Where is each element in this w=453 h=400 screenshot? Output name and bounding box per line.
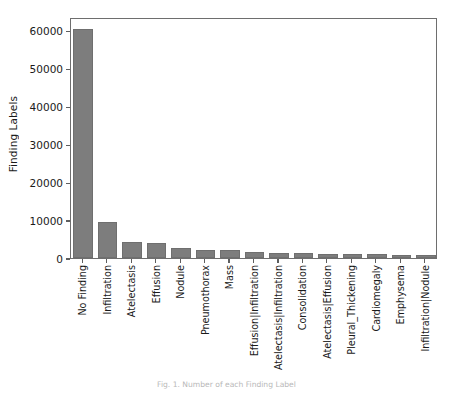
bar xyxy=(73,29,93,258)
y-tick-label: 40000 xyxy=(30,100,63,115)
x-tick-mark xyxy=(253,259,254,263)
x-tick-mark xyxy=(424,259,425,263)
x-tick-mark xyxy=(375,259,376,263)
bar xyxy=(98,222,118,258)
y-tick-label: 20000 xyxy=(30,176,63,191)
x-tick-label: Atelectasis|Infiltration xyxy=(272,265,283,370)
x-tick-mark xyxy=(326,259,327,263)
x-tick-mark xyxy=(180,259,181,263)
bar-series xyxy=(71,19,436,258)
x-tick-label: Cardiomegaly xyxy=(370,265,381,332)
x-tick-mark xyxy=(106,259,107,263)
y-tick-label: 10000 xyxy=(30,214,63,229)
y-axis-title-text: Finding Labels xyxy=(7,96,19,172)
x-tick-mark xyxy=(228,259,229,263)
x-tick-label: Atelectasis|Effusion xyxy=(321,265,332,359)
x-tick-mark xyxy=(131,259,132,263)
x-tick-label: Atelectasis xyxy=(126,265,137,317)
x-tick-mark xyxy=(204,259,205,263)
x-tick-label: Pneumothorax xyxy=(199,265,210,335)
y-tick-label: 50000 xyxy=(30,62,63,77)
bar xyxy=(245,252,265,258)
x-tick-label: Pleural_Thickening xyxy=(346,265,357,355)
figure-caption: Fig. 1. Number of each Finding Label xyxy=(0,380,453,389)
bar xyxy=(147,243,167,258)
x-tick-label: Mass xyxy=(224,265,235,289)
bar xyxy=(171,248,191,258)
y-tick-label: 60000 xyxy=(30,24,63,39)
x-tick-mark xyxy=(155,259,156,263)
x-tick-label: Effusion|Infiltration xyxy=(248,265,259,356)
y-tick-label: 30000 xyxy=(30,138,63,153)
x-tick-label: Effusion xyxy=(150,265,161,303)
x-tick-mark xyxy=(82,259,83,263)
bar xyxy=(318,254,338,258)
x-tick-mark xyxy=(351,259,352,263)
x-tick-label: Emphysema xyxy=(395,265,406,324)
bar xyxy=(269,253,289,258)
bar xyxy=(294,253,314,258)
x-tick-mark xyxy=(400,259,401,263)
bar xyxy=(367,254,387,258)
x-tick-label: No Finding xyxy=(77,265,88,316)
x-tick-mark xyxy=(277,259,278,263)
figure-container: Finding Labels 0100002000030000400005000… xyxy=(0,0,453,400)
bar xyxy=(220,250,240,258)
x-tick-label: Infiltration|Nodule xyxy=(419,265,430,352)
x-tick-mark xyxy=(302,259,303,263)
bar xyxy=(416,255,436,258)
bar xyxy=(122,242,142,258)
x-tick-label: Nodule xyxy=(175,265,186,299)
x-tick-label: Infiltration xyxy=(101,265,112,315)
x-tick-label: Consolidation xyxy=(297,265,308,330)
bar xyxy=(196,250,216,258)
plot-area xyxy=(70,18,437,259)
y-axis-title: Finding Labels xyxy=(0,0,26,268)
bar xyxy=(392,255,412,258)
bar xyxy=(343,254,363,258)
y-tick-label: 0 xyxy=(56,252,63,267)
